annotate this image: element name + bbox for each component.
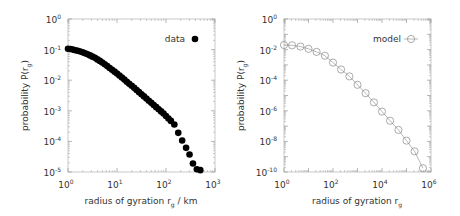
x-tick-label-exponent: 3 <box>217 178 221 185</box>
y-axis-title-close: ) <box>236 60 246 64</box>
x-tick-label-base: 10 <box>107 180 119 190</box>
data-point <box>190 160 197 167</box>
y-axis-title-close: ) <box>20 60 30 64</box>
chart-figure: 10010110210310010-110-210-310-410-5radiu… <box>0 0 460 216</box>
y-tick-label: 10-6 <box>260 105 278 117</box>
x-tick-label: 104 <box>372 178 387 190</box>
y-tick-label-base: 10 <box>44 76 56 86</box>
y-tick-label-exponent: -5 <box>55 166 61 173</box>
legend-label: model <box>373 34 401 44</box>
y-tick-label-base: 10 <box>260 76 272 86</box>
y-tick-label-base: 10 <box>46 15 58 25</box>
x-tick-label-base: 10 <box>58 180 70 190</box>
y-tick-label-exponent: -8 <box>271 135 277 142</box>
data-point <box>171 121 178 128</box>
y-tick-label-exponent: -3 <box>55 105 61 112</box>
x-tick-label-base: 10 <box>372 180 384 190</box>
y-tick-label-exponent: -1 <box>55 44 61 51</box>
y-tick-label: 10-10 <box>256 166 277 178</box>
x-axis-title: radius of gyration rg / km <box>85 196 198 209</box>
x-tick-label-base: 10 <box>323 180 335 190</box>
x-tick-label-exponent: 0 <box>70 178 74 185</box>
series-line <box>284 45 423 168</box>
x-tick-label-base: 10 <box>421 180 433 190</box>
data-point <box>183 145 190 152</box>
y-tick-label-base: 10 <box>260 46 272 56</box>
x-tick-label-base: 10 <box>156 180 168 190</box>
x-axis-title: radius of gyration rg <box>312 196 402 209</box>
y-tick-label-base: 10 <box>44 46 56 56</box>
y-tick-label: 10-2 <box>44 74 62 86</box>
x-tick-label: 103 <box>205 178 220 190</box>
panel-right: 10010210410610010-210-410-610-810-10radi… <box>236 13 437 209</box>
legend-label: data <box>165 34 185 44</box>
y-axis-title-text: probability P(r <box>20 67 30 131</box>
y-tick-label: 10-4 <box>260 74 278 86</box>
y-tick-label-base: 10 <box>260 137 272 147</box>
x-tick-label-base: 10 <box>205 180 217 190</box>
x-tick-label-exponent: 6 <box>433 178 437 185</box>
x-tick-label-exponent: 2 <box>335 178 339 185</box>
y-tick-label: 10-4 <box>44 135 62 147</box>
y-tick-label: 100 <box>262 13 277 25</box>
y-tick-label-base: 10 <box>44 137 56 147</box>
panel-left: 10010110210310010-110-210-310-410-5radiu… <box>20 13 221 209</box>
y-tick-label-exponent: -6 <box>271 105 277 112</box>
data-point <box>186 151 193 158</box>
y-tick-label-exponent: -10 <box>267 166 277 173</box>
y-tick-label-exponent: -4 <box>55 135 61 142</box>
y-axis-title-text: probability P(r <box>236 67 246 131</box>
x-tick-label-exponent: 1 <box>119 178 123 185</box>
data-point <box>179 137 186 144</box>
y-axis-title: probability P(rg) <box>236 60 249 131</box>
y-tick-label: 10-5 <box>44 166 62 178</box>
data-point <box>175 130 182 137</box>
y-tick-label-base: 10 <box>44 168 56 178</box>
y-tick-label: 10-2 <box>260 44 278 56</box>
x-axis-title-unit: / km <box>175 196 198 206</box>
y-tick-label: 100 <box>46 13 61 25</box>
x-tick-label: 100 <box>274 178 289 190</box>
y-tick-label-exponent: 0 <box>273 13 277 20</box>
y-tick-label-exponent: -2 <box>271 44 277 51</box>
x-tick-label: 101 <box>107 178 122 190</box>
x-axis-title-text: radius of gyration r <box>312 196 399 206</box>
y-tick-label-exponent: 0 <box>57 13 61 20</box>
y-tick-label: 10-8 <box>260 135 278 147</box>
x-tick-label: 102 <box>323 178 338 190</box>
y-tick-label-base: 10 <box>260 107 272 117</box>
y-tick-label-exponent: -2 <box>55 74 61 81</box>
x-axis-title-subscript: g <box>398 201 402 209</box>
data-point <box>197 167 204 174</box>
y-tick-label-base: 10 <box>256 168 268 178</box>
x-axis-title-text: radius of gyration r <box>85 196 172 206</box>
y-tick-label-exponent: -4 <box>271 74 277 81</box>
x-tick-label-exponent: 0 <box>286 178 290 185</box>
y-axis-title: probability P(rg) <box>20 60 33 131</box>
x-tick-label-exponent: 2 <box>168 178 172 185</box>
x-tick-label-base: 10 <box>274 180 286 190</box>
y-tick-label-base: 10 <box>262 15 274 25</box>
y-tick-label: 10-1 <box>44 44 62 56</box>
x-tick-label-exponent: 4 <box>384 178 388 185</box>
x-tick-label: 106 <box>421 178 436 190</box>
y-tick-label: 10-3 <box>44 105 62 117</box>
legend-marker <box>192 36 199 43</box>
x-tick-label: 102 <box>156 178 171 190</box>
y-tick-label-base: 10 <box>44 107 56 117</box>
x-tick-label: 100 <box>58 178 73 190</box>
